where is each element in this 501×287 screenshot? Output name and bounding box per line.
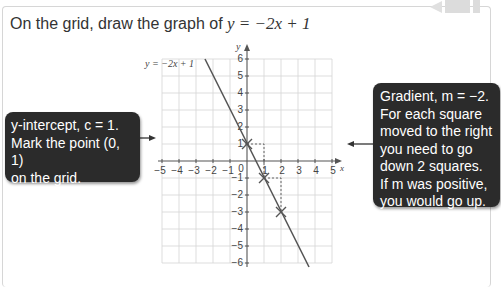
x-tick-labels: −5−4−3 −2−10 123 45 (154, 163, 336, 176)
svg-text:−3: −3 (188, 165, 200, 176)
svg-text:6: 6 (237, 53, 243, 64)
svg-text:−1: −1 (232, 172, 244, 183)
svg-text:4: 4 (237, 87, 243, 98)
svg-text:5: 5 (330, 165, 336, 176)
line-label: y = −2x + 1 (144, 58, 194, 69)
callout-y-intercept: y-intercept, c = 1. Mark the point (0, 1… (5, 112, 140, 182)
callout-line: y-intercept, c = 1. (11, 117, 134, 135)
graph-line (205, 59, 309, 267)
callout-line: down 2 squares. (380, 158, 493, 176)
callout-line: on the grid. (11, 170, 134, 188)
callout-line: Gradient, m = −2. (380, 88, 493, 106)
svg-text:−4: −4 (232, 223, 244, 234)
y-axis-label: y (235, 41, 241, 52)
callout-gradient: Gradient, m = −2. For each square moved … (373, 83, 500, 207)
svg-text:3: 3 (296, 165, 302, 176)
svg-text:−4: −4 (171, 165, 183, 176)
callout-line: you would go up. (380, 193, 493, 211)
svg-text:5: 5 (237, 70, 243, 81)
svg-text:4: 4 (313, 165, 319, 176)
x-axis-label: x (339, 163, 344, 173)
svg-text:−2: −2 (232, 189, 244, 200)
svg-text:3: 3 (237, 104, 243, 115)
svg-text:−6: −6 (232, 257, 244, 268)
callout-line: moved to the right (380, 123, 493, 141)
svg-text:−5: −5 (232, 240, 244, 251)
callout-line: you need to go (380, 141, 493, 159)
callout-line: If m was positive, (380, 176, 493, 194)
callout-line: For each square (380, 106, 493, 124)
svg-text:−5: −5 (154, 165, 166, 176)
y-axis-arrow-icon (244, 44, 250, 51)
right-pointer-arrow (347, 141, 373, 147)
axes (158, 50, 338, 267)
svg-text:−2: −2 (205, 165, 217, 176)
svg-text:2: 2 (279, 165, 285, 176)
svg-text:−3: −3 (232, 206, 244, 217)
callout-line: Mark the point (0, 1) (11, 135, 134, 170)
